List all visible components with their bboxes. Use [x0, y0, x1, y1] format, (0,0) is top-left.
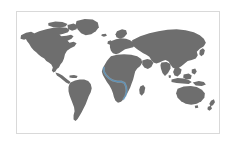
map-frame	[16, 11, 220, 134]
map-figure	[0, 0, 236, 145]
land-tasmania	[195, 105, 199, 108]
world-map	[17, 12, 219, 133]
